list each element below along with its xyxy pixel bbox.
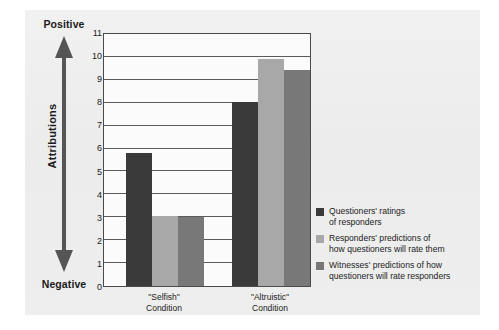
category-label: "Selfish"Condition bbox=[109, 292, 219, 314]
legend-label: Responders' predictions ofhow questioner… bbox=[329, 233, 445, 254]
category-label: "Altruistic"Condition bbox=[215, 292, 325, 314]
y-axis-tick: 6 bbox=[83, 143, 102, 153]
legend-label-line2: of responders bbox=[329, 217, 405, 228]
legend-label-line1: Responders' predictions of bbox=[329, 233, 445, 244]
y-axis-tick: 11 bbox=[83, 28, 102, 38]
y-axis-tick: 5 bbox=[83, 167, 102, 177]
legend-item: Responders' predictions ofhow questioner… bbox=[316, 233, 488, 254]
legend-label: Questioners' ratingsof responders bbox=[329, 206, 405, 227]
category-label-line2: Condition bbox=[109, 303, 219, 314]
axis-title-attributions: Attributions bbox=[46, 66, 58, 206]
bar bbox=[178, 217, 204, 286]
legend-item: Questioners' ratingsof responders bbox=[316, 206, 488, 227]
bar-group bbox=[232, 34, 311, 286]
y-axis-tick-labels: 11109876543210 bbox=[83, 33, 102, 287]
legend-label-line1: Witnesses' predictions of how bbox=[329, 260, 450, 271]
bar bbox=[232, 102, 258, 286]
category-label-line2: Condition bbox=[215, 303, 325, 314]
legend-swatch bbox=[316, 208, 324, 216]
y-axis-tick: 9 bbox=[83, 74, 102, 84]
y-axis-tick: 4 bbox=[83, 190, 102, 200]
legend: Questioners' ratingsof respondersRespond… bbox=[316, 206, 488, 287]
y-axis-tick: 3 bbox=[83, 213, 102, 223]
bar bbox=[126, 153, 152, 286]
legend-label-line2: how questioners will rate them bbox=[329, 244, 445, 255]
y-axis-tick: 7 bbox=[83, 120, 102, 130]
bar bbox=[152, 216, 178, 286]
legend-label-line2: questioners will rate responders bbox=[329, 271, 450, 282]
legend-label-line1: Questioners' ratings bbox=[329, 206, 405, 217]
legend-item: Witnesses' predictions of howquestioners… bbox=[316, 260, 488, 281]
y-axis-tick: 1 bbox=[83, 259, 102, 269]
category-label-line1: "Altruistic" bbox=[215, 292, 325, 303]
y-axis-tick: 8 bbox=[83, 97, 102, 107]
legend-label: Witnesses' predictions of howquestioners… bbox=[329, 260, 450, 281]
category-label-line1: "Selfish" bbox=[109, 292, 219, 303]
legend-swatch bbox=[316, 262, 324, 270]
bar bbox=[258, 59, 284, 286]
bar bbox=[284, 70, 310, 286]
legend-swatch bbox=[316, 235, 324, 243]
y-axis-tick: 10 bbox=[83, 51, 102, 61]
bar-group bbox=[126, 34, 205, 286]
plot-area bbox=[103, 33, 311, 287]
y-axis-tick: 2 bbox=[83, 236, 102, 246]
y-axis-tick: 0 bbox=[83, 282, 102, 292]
